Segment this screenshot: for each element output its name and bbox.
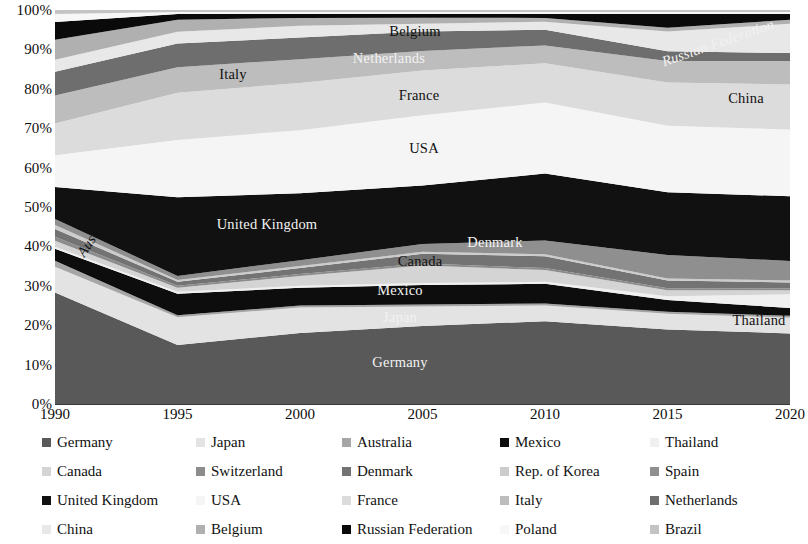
legend-item-label: Brazil	[665, 522, 702, 537]
series-label-canada: Canada	[398, 253, 443, 270]
x-axis-tick-2010: 2010	[510, 406, 580, 423]
legend-swatch-icon	[42, 438, 51, 447]
legend-item-label: Italy	[515, 493, 543, 508]
legend-item-united-kingdom[interactable]: United Kingdom	[42, 490, 158, 510]
series-label-germany: Germany	[372, 354, 427, 371]
legend-item-label: Belgium	[211, 522, 263, 537]
legend-item-label: Australia	[357, 435, 412, 450]
x-axis-tick-2000: 2000	[265, 406, 335, 423]
legend-swatch-icon	[500, 496, 509, 505]
legend-swatch-icon	[500, 438, 509, 447]
legend-item-label: United Kingdom	[57, 493, 158, 508]
legend-swatch-icon	[196, 467, 205, 476]
x-axis-tick-2005: 2005	[388, 406, 458, 423]
legend-swatch-icon	[342, 467, 351, 476]
legend-swatch-icon	[196, 525, 205, 534]
legend-item-brazil[interactable]: Brazil	[650, 519, 702, 539]
chart-legend: GermanyJapanAustraliaMexicoThailandCanad…	[0, 432, 808, 544]
legend-swatch-icon	[42, 467, 51, 476]
legend-item-label: Japan	[211, 435, 245, 450]
legend-item-mexico[interactable]: Mexico	[500, 432, 561, 452]
legend-item-thailand[interactable]: Thailand	[650, 432, 718, 452]
legend-row: GermanyJapanAustraliaMexicoThailand	[0, 432, 808, 460]
x-axis-tick-1990: 1990	[20, 406, 90, 423]
legend-item-italy[interactable]: Italy	[500, 490, 543, 510]
legend-item-label: Canada	[57, 464, 102, 479]
legend-item-denmark[interactable]: Denmark	[342, 461, 413, 481]
legend-swatch-icon	[650, 525, 659, 534]
series-label-russian-federation: Russian Federation	[660, 16, 777, 70]
legend-swatch-icon	[342, 496, 351, 505]
series-annotation-layer: GermanyJapanMexicoCanadaDenmarkSpainUnit…	[0, 0, 808, 420]
legend-swatch-icon	[42, 525, 51, 534]
legend-item-switzerland[interactable]: Switzerland	[196, 461, 283, 481]
legend-item-label: Switzerland	[211, 464, 283, 479]
legend-item-canada[interactable]: Canada	[42, 461, 102, 481]
legend-item-rep-of-korea[interactable]: Rep. of Korea	[500, 461, 600, 481]
x-axis-tick-2020: 2020	[755, 406, 808, 423]
plot-area: 100%90%80%70%60%50%40%30%20%10%0% German…	[0, 0, 808, 420]
legend-item-china[interactable]: China	[42, 519, 93, 539]
legend-item-france[interactable]: France	[342, 490, 398, 510]
legend-swatch-icon	[196, 438, 205, 447]
legend-item-netherlands[interactable]: Netherlands	[650, 490, 737, 510]
legend-item-label: Germany	[57, 435, 113, 450]
legend-swatch-icon	[500, 467, 509, 476]
legend-row: CanadaSwitzerlandDenmarkRep. of KoreaSpa…	[0, 461, 808, 489]
legend-item-australia[interactable]: Australia	[342, 432, 412, 452]
series-label-japan: Japan	[383, 309, 417, 326]
legend-item-label: Thailand	[665, 435, 718, 450]
series-label-netherlands: Netherlands	[353, 50, 425, 67]
legend-swatch-icon	[342, 438, 351, 447]
legend-row: United KingdomUSAFranceItalyNetherlands	[0, 490, 808, 518]
legend-swatch-icon	[196, 496, 205, 505]
legend-item-label: France	[357, 493, 398, 508]
series-label-australia: Australia	[73, 204, 118, 260]
series-label-belgium: Belgium	[389, 23, 440, 40]
legend-swatch-icon	[650, 467, 659, 476]
legend-item-belgium[interactable]: Belgium	[196, 519, 263, 539]
legend-item-label: Russian Federation	[357, 522, 472, 537]
legend-row: ChinaBelgiumRussian FederationPolandBraz…	[0, 519, 808, 544]
series-label-united-kingdom: United Kingdom	[217, 216, 318, 233]
legend-item-label: Spain	[665, 464, 699, 479]
stacked-area-chart: 100%90%80%70%60%50%40%30%20%10%0% German…	[0, 0, 808, 544]
legend-item-usa[interactable]: USA	[196, 490, 241, 510]
legend-swatch-icon	[342, 525, 351, 534]
legend-item-germany[interactable]: Germany	[42, 432, 113, 452]
x-axis-tick-2015: 2015	[633, 406, 703, 423]
legend-swatch-icon	[500, 525, 509, 534]
series-label-italy: Italy	[219, 66, 247, 83]
legend-item-label: China	[57, 522, 93, 537]
series-label-mexico: Mexico	[377, 282, 423, 299]
legend-item-japan[interactable]: Japan	[196, 432, 245, 452]
legend-item-russian-federation[interactable]: Russian Federation	[342, 519, 472, 539]
legend-item-label: Poland	[515, 522, 557, 537]
series-label-usa: USA	[409, 140, 439, 157]
legend-swatch-icon	[42, 496, 51, 505]
legend-swatch-icon	[650, 438, 659, 447]
legend-item-poland[interactable]: Poland	[500, 519, 557, 539]
legend-item-label: Rep. of Korea	[515, 464, 600, 479]
series-label-thailand: Thailand	[732, 312, 785, 329]
legend-item-label: USA	[211, 493, 241, 508]
legend-item-label: Denmark	[357, 464, 413, 479]
series-label-china: China	[728, 90, 764, 107]
series-label-france: France	[399, 87, 440, 104]
legend-item-label: Mexico	[515, 435, 561, 450]
series-label-spain: Spain	[598, 232, 632, 249]
legend-swatch-icon	[650, 496, 659, 505]
legend-item-label: Netherlands	[665, 493, 737, 508]
series-label-denmark: Denmark	[467, 234, 522, 251]
x-axis-tick-1995: 1995	[143, 406, 213, 423]
legend-item-spain[interactable]: Spain	[650, 461, 699, 481]
